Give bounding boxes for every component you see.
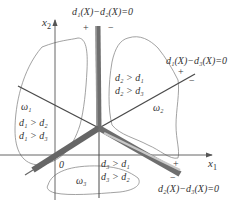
region-omega3-cond2: d₃ > d₂ <box>101 171 130 182</box>
region-omega2-label: ω₂ <box>153 102 164 113</box>
region-omega1-cond1: d₁ > d₂ <box>19 117 48 128</box>
decision-boundary-diagram: x2 x1 0 d₁(X)−d₂(X)=0 + − d₁(X)−d₃(X)=0 … <box>0 0 236 202</box>
boundary-d1-d3-plus: + <box>178 66 184 77</box>
boundary-d1-d2-plus: + <box>83 22 89 33</box>
boundary-d1-d2-band <box>98 26 99 128</box>
boundary-d2-d3-minus: − <box>170 172 176 183</box>
boundary-d1-d3-label: d₁(X)−d₃(X)=0 <box>166 55 227 67</box>
boundary-d1-d3-band-tip <box>25 170 33 175</box>
x2-axis-label: x2 <box>41 16 51 31</box>
region-omega1-label: ω₁ <box>21 101 32 112</box>
region-omega1-cond2: d₁ > d₃ <box>19 130 48 141</box>
region-omega2-cond2: d₂ > d₃ <box>115 85 144 96</box>
boundary-d1-d3-thin <box>99 74 195 128</box>
region-omega2-cond1: d₂ > d₁ <box>115 72 144 83</box>
x1-axis-label: x1 <box>207 157 217 172</box>
region-omega3-cond1: d₃ > d₁ <box>101 158 130 169</box>
origin-label: 0 <box>59 159 64 170</box>
boundary-d1-d2-label: d₁(X)−d₂(X)=0 <box>72 6 133 18</box>
boundary-d1-d2-minus: − <box>108 22 114 33</box>
boundary-d2-d3-label: d₂(X)−d₃(X)=0 <box>158 183 219 195</box>
boundary-d1-d3-minus: − <box>189 75 195 86</box>
region-omega3-label: ω₃ <box>76 175 87 186</box>
boundary-d1-d2-band-shade <box>96 26 97 126</box>
boundary-d2-d3-plus: + <box>173 158 179 169</box>
